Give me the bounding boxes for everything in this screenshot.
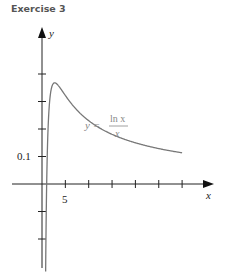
y-axis-label: y: [48, 27, 54, 39]
x-tick-label-5: 5: [62, 193, 68, 205]
equation-numerator: ln x: [110, 113, 125, 124]
y-tick-label-0-1: 0.1: [17, 150, 31, 162]
equation-denominator: x: [114, 128, 120, 139]
chart: y x 5 0.1 y = ln x x: [0, 0, 226, 279]
curve-ln-x-over-x: [46, 83, 182, 272]
x-axis-label: x: [205, 189, 211, 201]
equation-annotation: y = ln x x: [84, 113, 128, 139]
x-axis-arrow-icon: [203, 180, 214, 188]
equation-lhs: y =: [84, 119, 100, 131]
y-axis-arrow-icon: [38, 27, 46, 38]
